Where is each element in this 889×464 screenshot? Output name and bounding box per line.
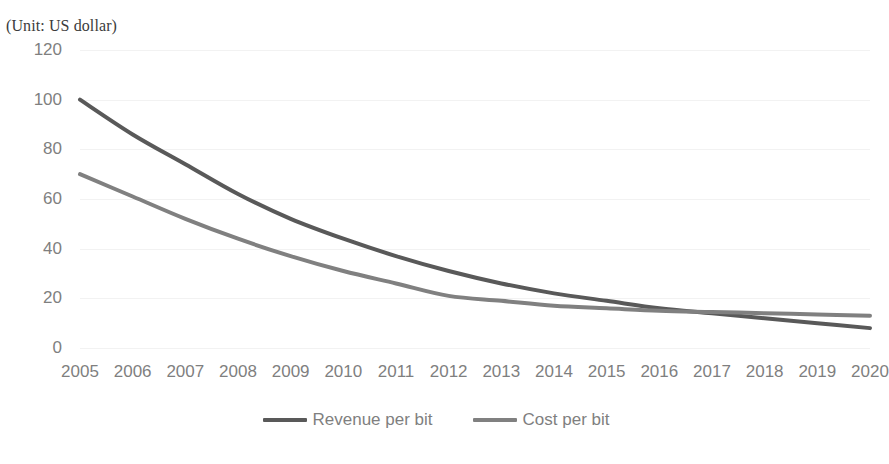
y-axis: 020406080100120 [0, 50, 70, 348]
x-axis: 2005200620072008200920102011201220132014… [80, 362, 870, 390]
x-tick-label: 2015 [588, 362, 626, 382]
y-tick-label: 60 [43, 189, 62, 209]
x-tick-label: 2019 [798, 362, 836, 382]
y-tick-label: 40 [43, 239, 62, 259]
y-tick-label: 80 [43, 139, 62, 159]
y-tick-label: 120 [34, 40, 62, 60]
x-tick-label: 2007 [166, 362, 204, 382]
x-tick-label: 2005 [61, 362, 99, 382]
x-tick-label: 2020 [851, 362, 889, 382]
legend-label: Revenue per bit [313, 410, 433, 430]
legend-line-swatch-icon [473, 418, 517, 422]
x-tick-label: 2017 [693, 362, 731, 382]
y-tick-label: 0 [53, 338, 62, 358]
legend-item[interactable]: Cost per bit [473, 410, 610, 430]
series-layer [80, 50, 870, 348]
x-tick-label: 2013 [482, 362, 520, 382]
x-tick-label: 2011 [378, 362, 415, 382]
x-tick-label: 2014 [535, 362, 573, 382]
legend-item[interactable]: Revenue per bit [263, 410, 433, 430]
x-tick-label: 2016 [640, 362, 678, 382]
x-tick-label: 2006 [114, 362, 152, 382]
x-tick-label: 2008 [219, 362, 257, 382]
x-tick-label: 2018 [746, 362, 784, 382]
gridline-0 [80, 348, 870, 349]
y-tick-label: 20 [43, 288, 62, 308]
legend-line-swatch-icon [263, 418, 307, 422]
unit-label: (Unit: US dollar) [6, 17, 117, 35]
plot-area [80, 50, 870, 348]
series-line-cost-per-bit [80, 174, 870, 316]
y-tick-label: 100 [34, 90, 62, 110]
legend-label: Cost per bit [523, 410, 610, 430]
x-tick-label: 2012 [430, 362, 468, 382]
x-tick-label: 2010 [324, 362, 362, 382]
x-tick-label: 2009 [272, 362, 310, 382]
legend: Revenue per bitCost per bit [0, 410, 872, 430]
series-line-revenue-per-bit [80, 100, 870, 328]
